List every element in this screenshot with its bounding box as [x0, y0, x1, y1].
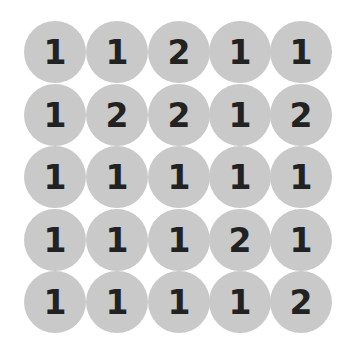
board-tile-r4-c2[interactable]: 1: [86, 209, 148, 271]
board-tile-r2-c2[interactable]: 2: [86, 84, 148, 146]
board-tile-r5-c1[interactable]: 1: [24, 271, 86, 333]
tile-number: 1: [168, 224, 191, 257]
tile-number: 1: [106, 224, 129, 257]
tile-number: 1: [44, 161, 67, 194]
tile-number: 2: [290, 99, 313, 132]
tile-number: 1: [290, 224, 313, 257]
board-tile-r3-c3[interactable]: 1: [148, 146, 210, 208]
tile-number: 1: [44, 99, 67, 132]
tile-number: 2: [168, 36, 191, 69]
board-tile-r2-c1[interactable]: 1: [24, 84, 86, 146]
board-tile-r3-c5[interactable]: 1: [270, 146, 332, 208]
tile-number: 1: [106, 36, 129, 69]
board-tile-r1-c2[interactable]: 1: [86, 21, 148, 83]
board-tile-r4-c3[interactable]: 1: [148, 209, 210, 271]
board-tile-r3-c2[interactable]: 1: [86, 146, 148, 208]
board-tile-r3-c1[interactable]: 1: [24, 146, 86, 208]
board-tile-r3-c4[interactable]: 1: [209, 146, 271, 208]
board-tile-r5-c2[interactable]: 1: [86, 271, 148, 333]
tile-number: 1: [229, 36, 252, 69]
board-tile-r5-c5[interactable]: 2: [270, 271, 332, 333]
tile-number: 2: [229, 224, 252, 257]
tile-number: 2: [168, 99, 191, 132]
board-tile-r4-c4[interactable]: 2: [209, 209, 271, 271]
tile-number: 1: [229, 99, 252, 132]
board-tile-r4-c1[interactable]: 1: [24, 209, 86, 271]
board-tile-r5-c3[interactable]: 1: [148, 271, 210, 333]
board-tile-r5-c4[interactable]: 1: [209, 271, 271, 333]
tile-number: 1: [290, 161, 313, 194]
board-tile-r1-c5[interactable]: 1: [270, 21, 332, 83]
tile-number: 2: [290, 286, 313, 319]
game-board: 1121112212111111112111112: [0, 0, 352, 350]
tile-number: 1: [44, 286, 67, 319]
tile-number: 1: [229, 161, 252, 194]
board-tile-r1-c4[interactable]: 1: [209, 21, 271, 83]
board-tile-r1-c3[interactable]: 2: [148, 21, 210, 83]
board-tile-r2-c5[interactable]: 2: [270, 84, 332, 146]
tile-number: 1: [229, 286, 252, 319]
tile-number: 1: [106, 161, 129, 194]
board-tile-r2-c3[interactable]: 2: [148, 84, 210, 146]
board-tile-r1-c1[interactable]: 1: [24, 21, 86, 83]
tile-number: 2: [106, 99, 129, 132]
board-tile-r2-c4[interactable]: 1: [209, 84, 271, 146]
tile-number: 1: [44, 224, 67, 257]
tile-number: 1: [290, 36, 313, 69]
tile-number: 1: [168, 161, 191, 194]
tile-number: 1: [106, 286, 129, 319]
board-tile-r4-c5[interactable]: 1: [270, 209, 332, 271]
tile-number: 1: [44, 36, 67, 69]
tile-number: 1: [168, 286, 191, 319]
